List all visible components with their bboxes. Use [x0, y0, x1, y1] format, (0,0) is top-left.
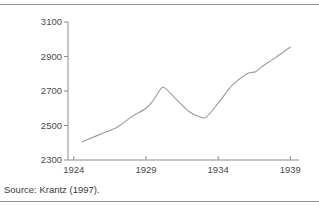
y-axis-tick-label: 2700 [22, 85, 62, 96]
x-axis-tick-label: 1939 [270, 164, 310, 175]
y-axis-tick-label: 3100 [22, 16, 62, 27]
source-note: Source: Krantz (1997). [4, 184, 100, 195]
plot-area: 23002500270029003100 1924192919341939 [0, 6, 319, 178]
y-axis-tick-label: 2500 [22, 120, 62, 131]
x-axis-tick-label: 1934 [198, 164, 238, 175]
axes [64, 22, 299, 160]
x-axis-tick-label: 1924 [54, 164, 94, 175]
y-axis-tick-label: 2900 [22, 51, 62, 62]
bottom-divider-rule [0, 201, 319, 202]
top-divider-rule [0, 4, 319, 5]
data-line-series-index [82, 47, 290, 142]
figure-container: 23002500270029003100 1924192919341939 So… [0, 0, 319, 206]
x-axis-ticks [74, 156, 291, 160]
x-axis-tick-label: 1929 [126, 164, 166, 175]
y-axis-ticks [64, 22, 68, 160]
